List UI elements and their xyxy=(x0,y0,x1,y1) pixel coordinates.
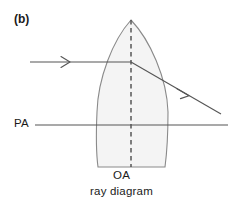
lens-shape xyxy=(96,20,168,167)
panel-label: (b) xyxy=(14,13,29,25)
ray-diagram-figure: (b) PA OA ray diagram xyxy=(0,0,243,208)
figure-caption: ray diagram xyxy=(0,186,243,198)
optical-axis-label: OA xyxy=(0,170,243,182)
principal-axis-label: PA xyxy=(14,118,29,130)
refracted-ray-arrow-icon xyxy=(177,89,189,99)
